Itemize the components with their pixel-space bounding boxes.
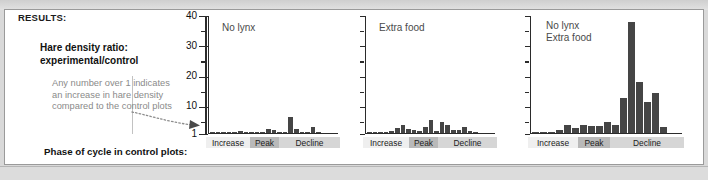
- panel-baseline: [365, 133, 495, 134]
- bar: [434, 131, 439, 133]
- panel-tick: [360, 31, 364, 32]
- bar: [395, 128, 400, 133]
- bar: [564, 125, 571, 133]
- phase-strip-2: IncreasePeakDecline: [363, 137, 497, 148]
- bar: [384, 132, 389, 133]
- bar: [440, 122, 445, 133]
- bar: [389, 131, 394, 133]
- y-axis-label-20: 20: [171, 70, 197, 81]
- panel-tick: [525, 61, 529, 62]
- y-axis-label-40: 40: [171, 10, 197, 21]
- phase-strip-1: IncreasePeakDecline: [206, 137, 340, 148]
- bar: [644, 102, 651, 132]
- bar: [423, 127, 428, 133]
- panel-tick: [525, 107, 530, 108]
- bar: [406, 129, 411, 133]
- panel-tick: [203, 122, 207, 123]
- bar: [596, 126, 603, 133]
- panel-1: [208, 16, 338, 134]
- bar: [283, 132, 288, 133]
- bar: [277, 132, 282, 133]
- panel-tick: [203, 77, 208, 78]
- y-axis-title-line2: experimental/control: [40, 55, 138, 66]
- bar: [417, 131, 422, 133]
- y-axis-label-30: 30: [171, 40, 197, 51]
- y-axis-title: Hare density ratio: experimental/control: [40, 42, 190, 67]
- bar: [540, 132, 547, 133]
- bar: [311, 127, 316, 132]
- bar: [210, 132, 215, 133]
- bottom-grey-band: [0, 166, 708, 180]
- bar: [227, 132, 232, 133]
- y-axis-label-10: 10: [171, 100, 197, 111]
- phase-segment-peak: Peak: [578, 137, 610, 148]
- panel-tick: [360, 61, 364, 62]
- phase-segment-decline: Decline: [438, 137, 497, 148]
- panel-baseline: [530, 133, 682, 134]
- panel-tick: [360, 16, 365, 17]
- y-axis-line: [205, 16, 207, 134]
- bar: [604, 122, 611, 133]
- panel-tick: [525, 31, 529, 32]
- bar: [532, 132, 539, 133]
- panel-tick: [360, 46, 365, 47]
- panel-tick: [203, 31, 207, 32]
- bar: [232, 132, 237, 133]
- bar: [473, 132, 478, 133]
- results-label: RESULTS:: [18, 12, 66, 23]
- panel-tick: [525, 77, 530, 78]
- bar: [300, 132, 305, 133]
- panel-tick: [525, 16, 530, 17]
- bar: [378, 132, 383, 133]
- panel-title-1: No lynx: [222, 22, 255, 34]
- panel-tick: [525, 46, 530, 47]
- panel-tick: [360, 134, 365, 135]
- bar: [628, 22, 635, 132]
- bar: [445, 125, 450, 133]
- phase-segment-peak: Peak: [409, 137, 438, 148]
- bar: [652, 93, 659, 132]
- phase-segment-increase: Increase: [206, 137, 250, 148]
- bar: [451, 130, 456, 132]
- panel-tick: [203, 134, 208, 135]
- phase-segment-increase: Increase: [363, 137, 409, 148]
- panel-baseline: [208, 133, 338, 134]
- bar: [620, 98, 627, 133]
- figure-root: RESULTS: Hare density ratio: experimenta…: [0, 0, 708, 180]
- bar: [588, 126, 595, 133]
- panel-2: [365, 16, 495, 134]
- bar: [468, 131, 473, 133]
- panel-tick: [203, 16, 208, 17]
- bar: [580, 125, 587, 132]
- panel-tick: [203, 107, 208, 108]
- bar: [244, 132, 249, 133]
- panel-tick: [360, 77, 365, 78]
- phase-segment-peak: Peak: [250, 137, 279, 148]
- panel-tick: [360, 122, 364, 123]
- y-axis-title-line1: Hare density ratio:: [40, 42, 128, 53]
- bar: [462, 127, 467, 133]
- bar: [316, 132, 321, 133]
- bar: [457, 130, 462, 133]
- panel-title-3: No lynx Extra food: [546, 20, 592, 43]
- panel-tick: [525, 92, 529, 93]
- bar: [401, 125, 406, 132]
- bar: [288, 117, 293, 133]
- bar: [556, 130, 563, 132]
- bar: [249, 132, 254, 133]
- panel-title-2: Extra food: [379, 22, 425, 34]
- bar: [294, 129, 299, 133]
- panel-tick: [360, 107, 365, 108]
- bar: [266, 129, 271, 133]
- bar: [305, 132, 310, 133]
- bar: [255, 132, 260, 133]
- y-axis-label-1: 1: [171, 128, 197, 139]
- panel-tick: [525, 134, 530, 135]
- bar: [367, 132, 372, 133]
- bar: [260, 132, 265, 133]
- panel-tick: [203, 46, 208, 47]
- phase-segment-decline: Decline: [279, 137, 340, 148]
- phase-strip-3: IncreasePeakDecline: [528, 137, 684, 148]
- bar: [216, 132, 221, 133]
- bar-series: [367, 17, 493, 133]
